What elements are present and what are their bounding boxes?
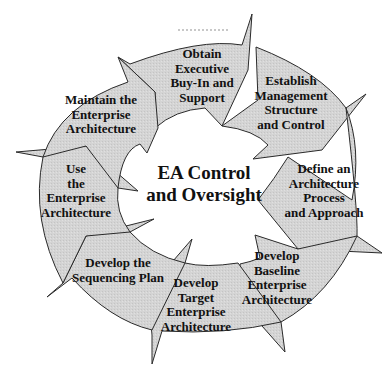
ea-cycle-diagram: EA Control and Oversight Obtain Executiv… — [0, 0, 392, 379]
step-label-sequencing: Develop the Sequencing Plan — [72, 256, 164, 285]
step-label-define: Define an Architecture Process and Appro… — [285, 162, 364, 220]
step-label-establish: Establish Management Structure and Contr… — [255, 74, 328, 132]
step-label-use: Use the Enterprise Architecture — [41, 162, 111, 220]
faint-header-mark — [178, 29, 228, 33]
step-label-baseline: Develop Baseline Enterprise Architecture — [242, 249, 312, 307]
step-label-target: Develop Target Enterprise Architecture — [161, 276, 231, 334]
step-label-obtain: Obtain Executive Buy-In and Support — [170, 47, 233, 105]
center-title: EA Control and Oversight — [146, 162, 262, 206]
step-label-maintain: Maintain the Enterprise Architecture — [65, 93, 137, 137]
